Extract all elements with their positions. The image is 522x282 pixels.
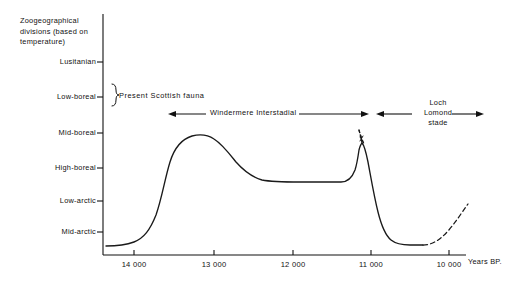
annotation-present-scottish-fauna: Present Scottish fauna bbox=[119, 91, 204, 102]
y-tick-label-low-arctic: Low-arctic bbox=[20, 196, 96, 207]
y-tick-label-mid-boreal: Mid-boreal bbox=[20, 128, 96, 139]
figure-container: Zoogeographical divisions (based on temp… bbox=[0, 0, 522, 282]
y-axis-caption: Zoogeographical divisions (based on temp… bbox=[20, 16, 98, 48]
loch-lomond-arrow-left bbox=[376, 111, 412, 117]
temperature-curve-solid bbox=[106, 135, 423, 246]
y-tick-label-high-boreal: High-boreal bbox=[20, 163, 96, 174]
x-axis-ticks bbox=[134, 250, 449, 255]
windermere-arrow-right bbox=[299, 111, 369, 117]
loch-lomond-line-1: Loch bbox=[429, 98, 446, 107]
windermere-arrow-left bbox=[168, 111, 206, 117]
y-tick-label-lusitanian: Lusitanian bbox=[20, 57, 96, 68]
y-tick-label-low-boreal: Low-boreal bbox=[20, 92, 96, 103]
annotation-windermere-interstadial: Windermere Interstadial bbox=[210, 108, 297, 119]
present-fauna-brace bbox=[112, 84, 119, 106]
x-tick-label-14000: 14 000 bbox=[104, 259, 164, 270]
loch-lomond-line-2: Lomond bbox=[424, 108, 452, 117]
holocene-rise-dashed bbox=[423, 204, 468, 245]
x-tick-label-13000: 13 000 bbox=[184, 259, 244, 270]
x-tick-label-12000: 12 000 bbox=[263, 259, 323, 270]
x-tick-label-11000: 11 000 bbox=[341, 259, 401, 270]
y-tick-label-mid-arctic: Mid-arctic bbox=[20, 227, 96, 238]
annotation-loch-lomond-stade: Loch Lomond stade bbox=[415, 98, 461, 128]
y-axis-ticks bbox=[97, 62, 103, 232]
x-axis-title: Years BP. bbox=[468, 257, 502, 268]
loch-lomond-line-3: stade bbox=[428, 118, 447, 127]
